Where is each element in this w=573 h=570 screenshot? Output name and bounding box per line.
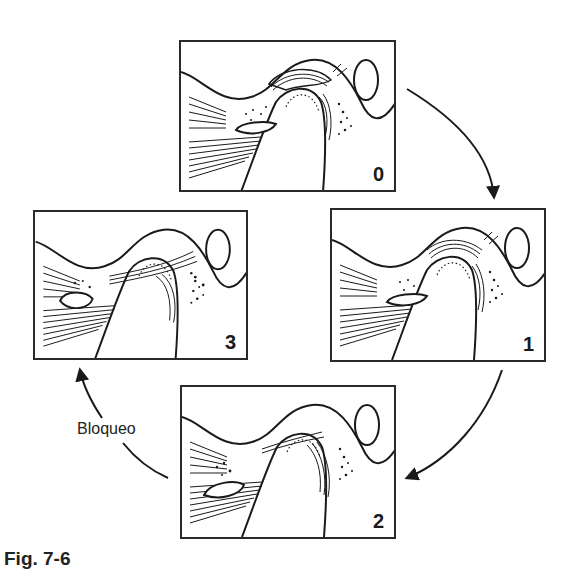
bloqueo-label: Bloqueo: [77, 420, 136, 438]
arrow-1-to-2-icon: [407, 370, 502, 478]
arrow-2-to-3-lower-icon: [123, 443, 168, 478]
arrow-0-to-1-icon: [407, 89, 494, 197]
figure-caption: Fig. 7-6: [4, 548, 71, 570]
arrow-2-to-3-upper-icon: [80, 370, 102, 418]
